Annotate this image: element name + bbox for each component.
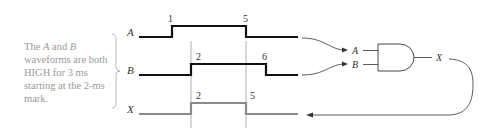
arrowhead-icon [342,62,348,67]
waveform-b [139,64,298,75]
arrow-a-to-gate [302,38,345,50]
edge-label-x-fall: 5 [250,90,255,101]
arrowhead-icon [306,113,313,118]
gate-input-label-b: B [352,59,358,70]
edge-label-x-rise: 2 [196,90,201,101]
waveform-a [139,26,298,37]
timing-diagram: A B X 1 5 2 6 2 5 A B X [0,0,491,133]
wave-label-b: B [127,64,134,76]
gate-output-label-x: X [435,52,443,63]
edge-label-b-fall: 6 [262,51,267,62]
gate-input-label-a: A [351,45,359,56]
arrowhead-icon [342,48,348,53]
edge-label-a-fall: 5 [243,13,248,24]
waveform-x [139,103,298,114]
edge-label-b-rise: 2 [196,51,201,62]
wave-label-x: X [126,103,135,115]
and-gate-icon [378,44,414,71]
wave-label-a: A [126,26,134,38]
brace [112,34,120,108]
edge-label-a-rise: 1 [168,13,173,24]
arrow-b-to-gate [302,64,345,75]
